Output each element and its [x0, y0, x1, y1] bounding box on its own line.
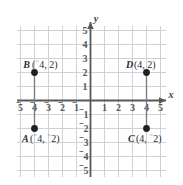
point-label-a-close: )	[56, 133, 59, 145]
point-label-a-name: A	[21, 133, 29, 144]
y-tick-label: 3	[84, 137, 89, 148]
y-tick-label: 4	[84, 151, 89, 162]
y-tick-label: 5	[84, 165, 89, 176]
x-tick-label: 5	[18, 102, 23, 113]
point-label-d-name: D	[125, 59, 133, 70]
point-label-d-coords: (4, 2)	[134, 59, 156, 71]
axes	[17, 22, 166, 177]
x-tick-label: 2	[60, 102, 65, 113]
x-tick-label: 2	[116, 102, 121, 113]
point-label-d: D	[125, 59, 133, 70]
point-b	[31, 69, 38, 76]
point-label-b-name: B	[22, 59, 30, 70]
x-tick-label: 3	[130, 102, 135, 113]
x-tick-label: 3	[46, 102, 51, 113]
x-tick-label: 1	[102, 102, 107, 113]
point-label-b-coords: (⁻4, 2)	[32, 58, 58, 71]
point-label-c-name: C	[128, 133, 135, 144]
point-label-c-close: )	[158, 133, 161, 145]
point-a	[31, 125, 38, 132]
y-tick-label: 2	[84, 123, 89, 134]
point-label-a: A	[21, 133, 29, 144]
y-tick-label: 5	[83, 25, 88, 36]
y-tick-label: 1	[83, 81, 88, 92]
y-axis-name: y	[93, 13, 99, 24]
y-tick-label: 1	[84, 109, 89, 120]
x-tick-label: 5	[158, 102, 163, 113]
point-label-c: C	[128, 133, 135, 144]
y-tick-label: 2	[83, 67, 88, 78]
point-d	[143, 69, 150, 76]
coordinate-plane-svg: ⁻ 5 ⁻ 4 ⁻ 3 ⁻ 2 ⁻ 1 1 2 3 4 5 5 4 3 2 1	[0, 0, 183, 185]
point-c	[143, 125, 150, 132]
y-tick-label: 4	[83, 39, 88, 50]
y-tick-label: 3	[83, 53, 88, 64]
point-label-c-coords: (4, ⁻2)	[136, 132, 162, 145]
point-label-b-close: )	[54, 59, 57, 71]
point-label-b: B	[22, 59, 30, 70]
coordinate-plane-figure: ⁻ 5 ⁻ 4 ⁻ 3 ⁻ 2 ⁻ 1 1 2 3 4 5 5 4 3 2 1	[0, 0, 183, 185]
x-axis-name: x	[168, 89, 174, 100]
point-label-d-close: )	[152, 59, 155, 71]
